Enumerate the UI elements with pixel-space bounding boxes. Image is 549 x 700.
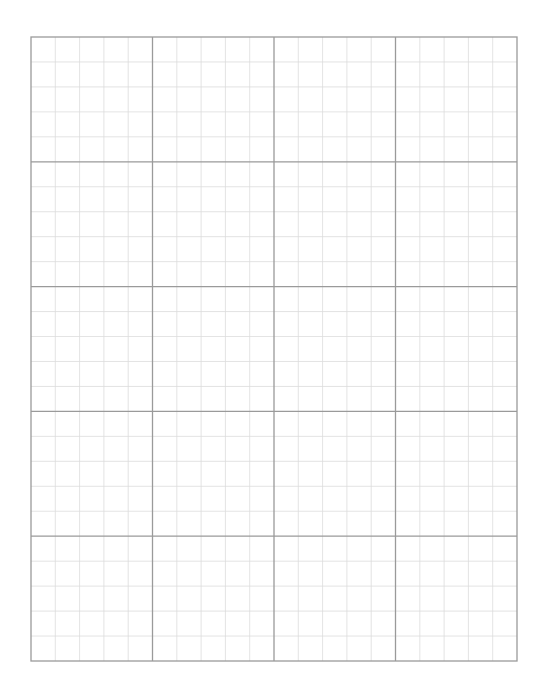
graph-paper-grid: [0, 0, 549, 700]
graph-paper-page: [0, 0, 549, 700]
